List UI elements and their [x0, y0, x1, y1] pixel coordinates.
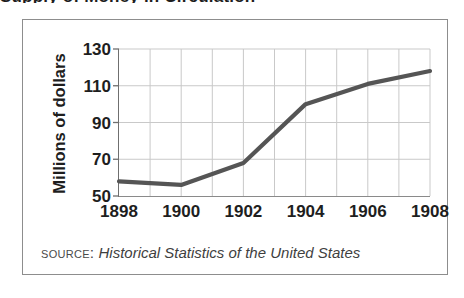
x-tick-label-1902: 1902	[224, 203, 262, 220]
x-tick-label-1904: 1904	[287, 203, 325, 220]
source-title: Historical Statistics of the United Stat…	[99, 244, 361, 261]
source-label: Source:	[41, 244, 94, 261]
x-tick-label-1898: 1898	[100, 203, 138, 220]
data-line-series	[119, 49, 430, 196]
x-tick-label-1906: 1906	[349, 203, 387, 220]
figure-frame: Millions of dollars 130110907050 1898190…	[22, 19, 448, 275]
source-note: Source: Historical Statistics of the Uni…	[41, 244, 360, 262]
y-tick-label-70: 70	[92, 151, 111, 168]
cutoff-headline: Supply of Money in Circulation	[0, 0, 464, 3]
x-tick-label-1900: 1900	[162, 203, 200, 220]
y-tick-label-90: 90	[92, 114, 111, 131]
x-tick-label-1908: 1908	[411, 203, 449, 220]
y-tick-label-130: 130	[83, 41, 111, 58]
y-tick-label-110: 110	[84, 77, 111, 94]
y-axis-title: Millions of dollars	[50, 44, 69, 204]
plot-area: 130110907050 189819001902190419061908	[118, 49, 430, 197]
